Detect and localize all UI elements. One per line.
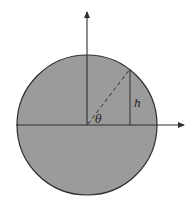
height-h-label: h (134, 97, 141, 110)
circle-diagram: θ h (0, 0, 193, 209)
angle-theta-label: θ (95, 113, 102, 126)
